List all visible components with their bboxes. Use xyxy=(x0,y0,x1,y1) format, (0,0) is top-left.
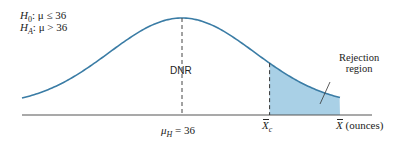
hypotheses: H0: μ ≤ 36 HA: μ > 36 xyxy=(20,9,67,33)
mean-label: μH = 36 xyxy=(161,124,195,141)
critical-value-label: Xc xyxy=(262,119,272,136)
alternative-hypothesis: HA: μ > 36 xyxy=(20,21,67,33)
rejection-region-label: Rejection region xyxy=(339,52,379,74)
dnr-label: DNR xyxy=(170,65,192,77)
axis-label: X (ounces) xyxy=(336,119,383,131)
null-hypothesis: H0: μ ≤ 36 xyxy=(20,9,67,21)
